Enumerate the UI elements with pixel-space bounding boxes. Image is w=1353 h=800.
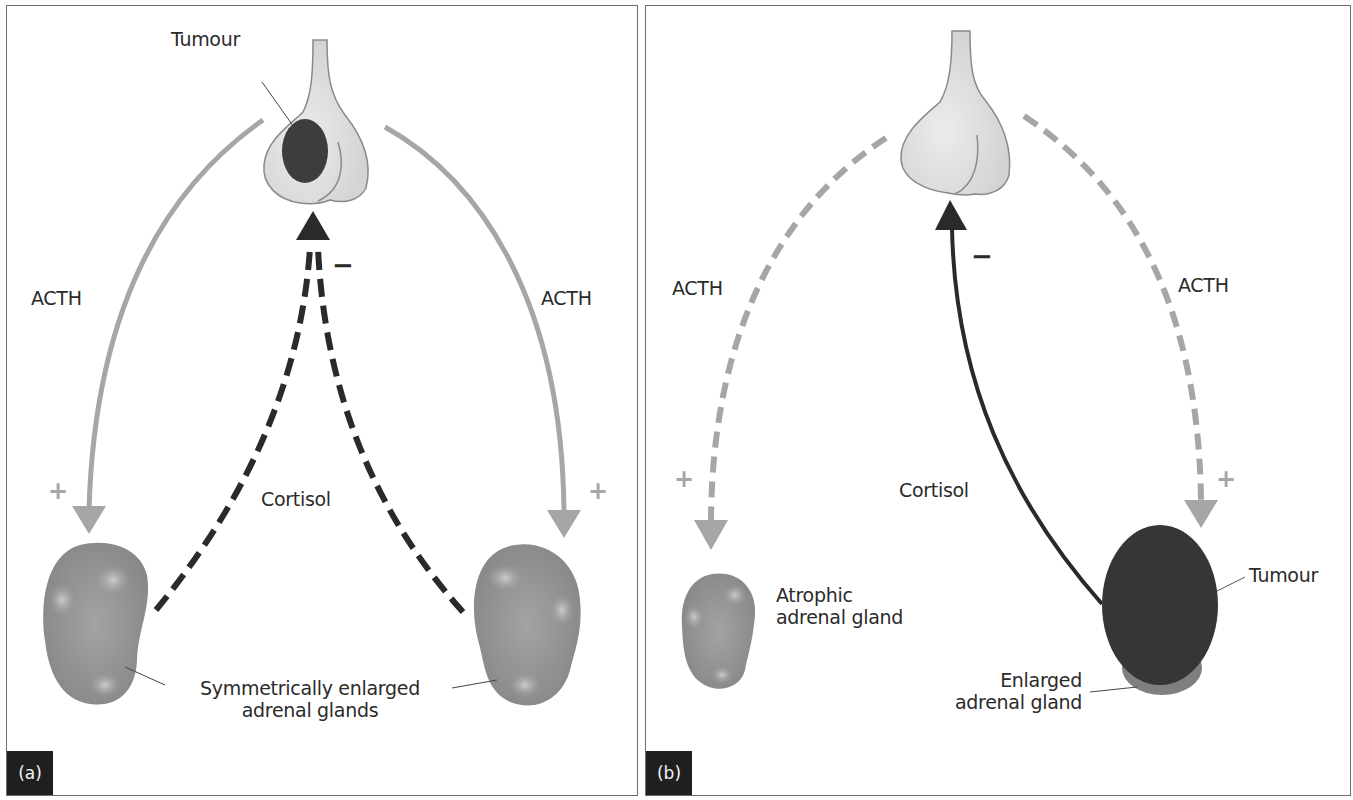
acth-arrow-left-a <box>72 120 263 534</box>
adrenal-gland-right-a <box>452 544 581 705</box>
acth-arrow-left-b <box>694 138 886 550</box>
acth-label-left-b: ACTH <box>672 277 723 299</box>
inhibition-sign-b: − <box>971 243 993 269</box>
inhibition-sign-a: − <box>332 252 354 278</box>
acth-label-right-a: ACTH <box>541 287 592 309</box>
acth-arrow-right-b <box>1024 116 1218 528</box>
atrophic-adrenal-gland-b <box>682 573 755 688</box>
enlarged-label-line1: Enlarged <box>880 669 1082 691</box>
atrophic-label-line1: Atrophic <box>776 584 903 606</box>
glands-label-line1: Symmetrically enlarged <box>160 677 460 699</box>
atrophic-gland-label-b: Atrophic adrenal gland <box>776 584 903 628</box>
pituitary-gland-b <box>901 31 1010 195</box>
stimulation-sign-left-b: + <box>674 467 694 491</box>
cortisol-arrow-b <box>935 200 1102 604</box>
figure: Tumour ACTH ACTH Cortisol Symmetrically … <box>0 0 1353 800</box>
acth-label-right-b: ACTH <box>1178 274 1229 296</box>
stimulation-sign-right-b: + <box>1216 467 1236 491</box>
acth-label-left-a: ACTH <box>31 287 82 309</box>
glands-label-a: Symmetrically enlarged adrenal glands <box>160 677 460 721</box>
panel-tag-b: (b) <box>646 751 692 795</box>
tumour-label-a: Tumour <box>171 28 240 50</box>
stimulation-sign-right-a: + <box>588 479 608 503</box>
panel-tag-a: (a) <box>7 751 53 795</box>
pituitary-tumour-a <box>282 119 328 183</box>
cortisol-label-a: Cortisol <box>261 488 331 510</box>
glands-label-line2: adrenal glands <box>160 699 460 721</box>
enlarged-gland-label-b: Enlarged adrenal gland <box>880 669 1082 713</box>
enlarged-label-line2: adrenal gland <box>880 691 1082 713</box>
pituitary-gland-a <box>262 40 368 204</box>
tumour-label-b: Tumour <box>1249 564 1318 586</box>
adrenal-gland-left-a <box>43 543 165 705</box>
acth-arrow-right-a <box>385 127 581 538</box>
adrenal-tumour-b <box>1102 525 1245 685</box>
cortisol-arrow-a <box>156 211 463 612</box>
atrophic-label-line2: adrenal gland <box>776 606 903 628</box>
stimulation-sign-left-a: + <box>48 479 68 503</box>
cortisol-label-b: Cortisol <box>899 479 969 501</box>
